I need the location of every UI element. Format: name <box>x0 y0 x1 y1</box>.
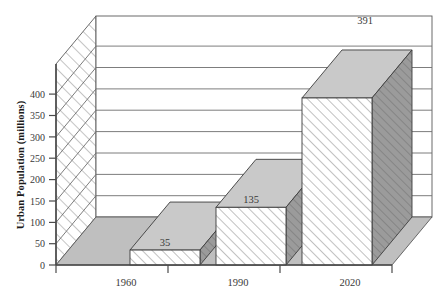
x-tick-labels: 1960 1990 2020 <box>116 277 361 288</box>
y-tick-label: 0 <box>40 260 45 271</box>
y-tick-label: 200 <box>30 174 45 185</box>
y-tick-label: 250 <box>30 153 45 164</box>
y-tick-label: 300 <box>30 132 45 143</box>
y-tick-label: 150 <box>30 196 45 207</box>
y-tick-label: 350 <box>30 110 45 121</box>
y-tick-label: 100 <box>30 217 45 228</box>
bar-value-label-2020: 391 <box>357 15 373 26</box>
y-axis-title: Urban Population (millions) <box>15 100 27 229</box>
x-tick-label-1960: 1960 <box>116 277 137 288</box>
bar-chart-svg: 0 50 100 150 200 250 300 350 400 Urban P… <box>0 0 446 300</box>
bar-2020[interactable] <box>302 50 412 265</box>
x-tick-label-2020: 2020 <box>340 277 361 288</box>
y-tick-label: 50 <box>35 238 45 249</box>
chart-container: 0 50 100 150 200 250 300 350 400 Urban P… <box>0 0 446 300</box>
x-tick-label-1990: 1990 <box>228 277 249 288</box>
bar-value-label-1960: 35 <box>160 237 171 248</box>
y-tick-label: 400 <box>30 89 45 100</box>
bar-value-label-1990: 135 <box>243 194 259 205</box>
y-axis <box>49 64 56 265</box>
x-axis <box>56 265 392 273</box>
y-tick-labels: 0 50 100 150 200 250 300 350 400 <box>30 89 45 271</box>
